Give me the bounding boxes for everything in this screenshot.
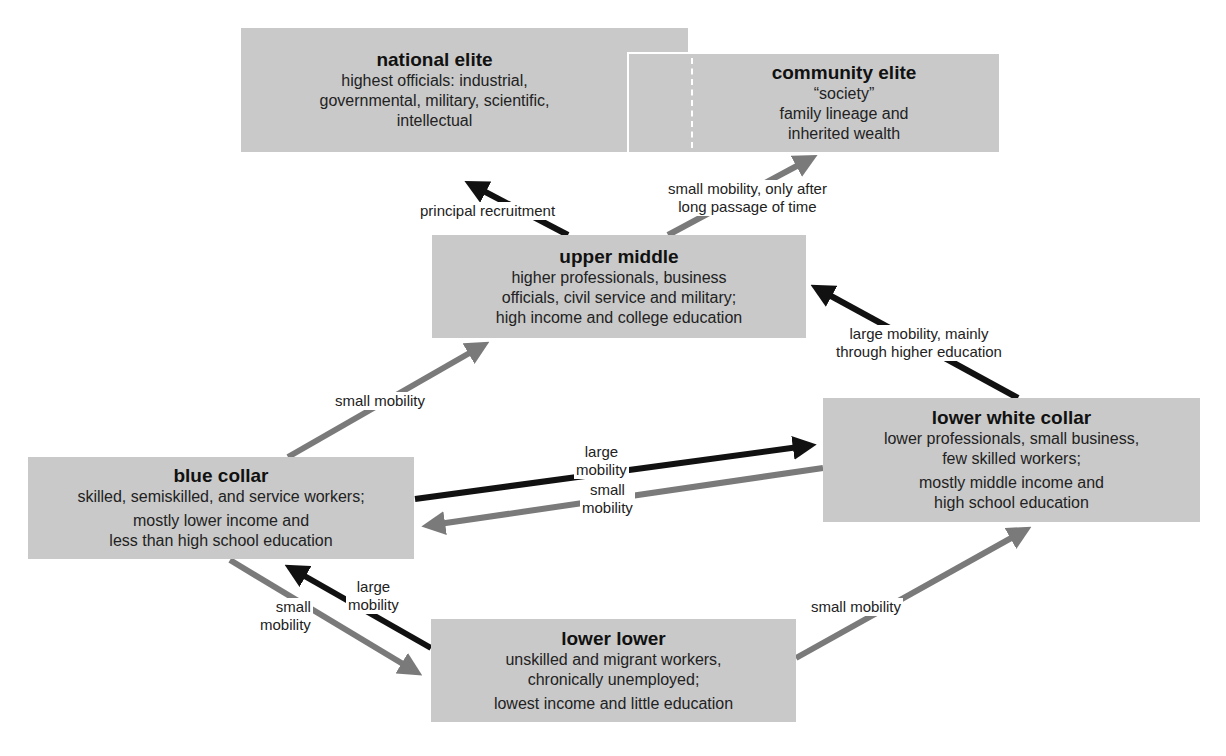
box-line: few skilled workers; bbox=[823, 449, 1200, 469]
label-blue-to-lower-small-mobility: small mobility bbox=[258, 598, 313, 634]
label-line: large bbox=[348, 578, 399, 596]
box-line: high school education bbox=[823, 493, 1200, 513]
box-line: less than high school education bbox=[28, 531, 414, 551]
box-line: highest officials: industrial, bbox=[241, 71, 628, 91]
box-lower-lower: lower lower unskilled and migrant worker… bbox=[431, 619, 796, 722]
label-line: through higher education bbox=[836, 343, 1002, 361]
box-line: unskilled and migrant workers, bbox=[431, 650, 796, 670]
label-blue-to-lwc-large-mobility: large mobility bbox=[574, 443, 629, 479]
box-upper-middle: upper middle higher professionals, busin… bbox=[432, 235, 806, 338]
label-line: mobility bbox=[576, 461, 627, 479]
box-lower-white-collar: lower white collar lower professionals, … bbox=[823, 398, 1200, 522]
box-title: upper middle bbox=[432, 246, 806, 268]
box-title: blue collar bbox=[28, 465, 414, 487]
box-line: chronically unemployed; bbox=[431, 670, 796, 690]
label-line: long passage of time bbox=[668, 198, 827, 216]
box-line: inherited wealth bbox=[689, 124, 999, 144]
box-line: higher professionals, business bbox=[432, 268, 806, 288]
box-title: community elite bbox=[689, 62, 999, 84]
label-lower-to-lwc-small-mobility: small mobility bbox=[809, 598, 903, 616]
box-line: intellectual bbox=[241, 111, 628, 131]
arrow-lower-to-lwc bbox=[796, 532, 1022, 658]
box-title: national elite bbox=[241, 49, 628, 71]
label-small-mobility-long-passage: small mobility, only after long passage … bbox=[666, 180, 829, 216]
box-line: lowest income and little education bbox=[431, 694, 796, 714]
box-line: mostly lower income and bbox=[28, 511, 414, 531]
label-line: mobility bbox=[348, 596, 399, 614]
box-line: high income and college education bbox=[432, 308, 806, 328]
box-blue-collar: blue collar skilled, semiskilled, and se… bbox=[28, 457, 414, 559]
box-national-elite: national elite highest officials: indust… bbox=[241, 28, 688, 152]
label-line: mobility bbox=[582, 499, 633, 517]
box-line: “society” bbox=[689, 84, 999, 104]
box-line: family lineage and bbox=[689, 104, 999, 124]
label-line: mobility bbox=[260, 616, 311, 634]
box-title: lower lower bbox=[431, 628, 796, 650]
label-line: large bbox=[576, 443, 627, 461]
label-lwc-to-blue-small-mobility: small mobility bbox=[580, 481, 635, 517]
box-community-elite: community elite “society” family lineage… bbox=[627, 52, 1001, 154]
label-principal-recruitment: principal recruitment bbox=[418, 202, 557, 220]
box-line: governmental, military, scientific, bbox=[241, 91, 628, 111]
box-line: officials, civil service and military; bbox=[432, 288, 806, 308]
label-line: small bbox=[260, 598, 311, 616]
label-lower-to-blue-large-mobility: large mobility bbox=[346, 578, 401, 614]
label-large-mobility-higher-education: large mobility, mainly through higher ed… bbox=[834, 325, 1004, 361]
box-line: mostly middle income and bbox=[823, 473, 1200, 493]
box-line: lower professionals, small business, bbox=[823, 429, 1200, 449]
box-title: lower white collar bbox=[823, 407, 1200, 429]
label-blue-to-upper-small-mobility: small mobility bbox=[333, 392, 427, 410]
box-line: skilled, semiskilled, and service worker… bbox=[28, 487, 414, 507]
label-line: small mobility, only after bbox=[668, 180, 827, 198]
dashed-divider bbox=[691, 58, 693, 148]
label-line: large mobility, mainly bbox=[836, 325, 1002, 343]
label-line: small bbox=[582, 481, 633, 499]
